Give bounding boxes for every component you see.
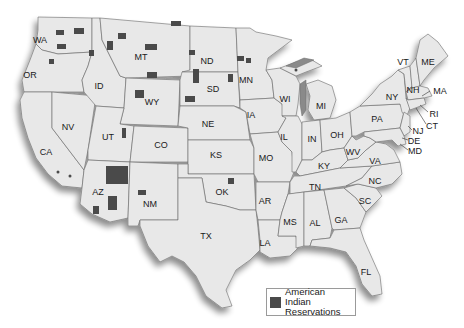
reservation-swatch-icon	[270, 297, 281, 308]
state-mi	[306, 80, 336, 120]
state-label-la: LA	[259, 238, 270, 248]
state-label-ut: UT	[102, 132, 114, 142]
state-label-me: ME	[421, 57, 435, 67]
state-label-or: OR	[23, 70, 37, 80]
state-label-pa: PA	[371, 114, 382, 124]
state-label-id: ID	[95, 81, 105, 91]
state-label-wy: WY	[145, 97, 160, 107]
state-label-al: AL	[309, 218, 320, 228]
state-label-il: IL	[280, 132, 288, 142]
state-label-nd: ND	[201, 56, 214, 66]
state-label-nj: NJ	[413, 126, 424, 136]
state-label-sd: SD	[207, 84, 220, 94]
state-label-mo: MO	[259, 153, 274, 163]
state-label-sc: SC	[359, 196, 372, 206]
states-layer	[20, 17, 448, 308]
state-label-ia: IA	[247, 110, 256, 120]
legend-label-line1: American Indian	[285, 286, 325, 307]
state-label-fl: FL	[361, 267, 372, 277]
state-label-tn: TN	[309, 182, 321, 192]
state-label-va: VA	[369, 156, 380, 166]
state-label-de: DE	[408, 136, 421, 146]
state-label-wa: WA	[33, 35, 47, 45]
state-label-ks: KS	[210, 150, 222, 160]
legend: American Indian Reservations	[266, 288, 356, 316]
legend-label-line2: Reservations	[285, 306, 340, 317]
state-label-ma: MA	[433, 86, 447, 96]
state-label-in: IN	[308, 134, 317, 144]
legend-label: American Indian Reservations	[285, 287, 352, 317]
state-label-oh: OH	[330, 130, 344, 140]
state-label-ri: RI	[430, 109, 439, 119]
state-label-mt: MT	[135, 52, 148, 62]
state-nm	[128, 162, 178, 226]
state-label-mi: MI	[316, 101, 326, 111]
lake-michigan	[300, 80, 306, 116]
state-label-ca: CA	[40, 147, 53, 157]
state-label-vt: VT	[397, 57, 409, 67]
state-label-az: AZ	[92, 187, 104, 197]
state-label-ar: AR	[259, 196, 272, 206]
state-label-ct: CT	[426, 121, 438, 131]
state-label-wv: WV	[346, 147, 361, 157]
state-label-md: MD	[408, 146, 422, 156]
state-label-ok: OK	[215, 187, 228, 197]
state-label-nv: NV	[62, 122, 75, 132]
state-label-wi: WI	[280, 94, 291, 104]
us-map: WAORCANVIDMTWYUTAZCONMNDSDNEKSOKTXMNIAMO…	[0, 0, 464, 328]
state-label-ny: NY	[386, 92, 399, 102]
state-label-nh: NH	[407, 85, 420, 95]
state-label-nm: NM	[143, 199, 157, 209]
state-label-ms: MS	[283, 217, 297, 227]
state-label-mn: MN	[239, 75, 253, 85]
state-label-co: CO	[154, 140, 168, 150]
state-label-ga: GA	[334, 215, 347, 225]
state-label-tx: TX	[200, 231, 212, 241]
state-label-ky: KY	[318, 161, 330, 171]
state-label-ne: NE	[202, 119, 215, 129]
state-label-nc: NC	[369, 176, 382, 186]
